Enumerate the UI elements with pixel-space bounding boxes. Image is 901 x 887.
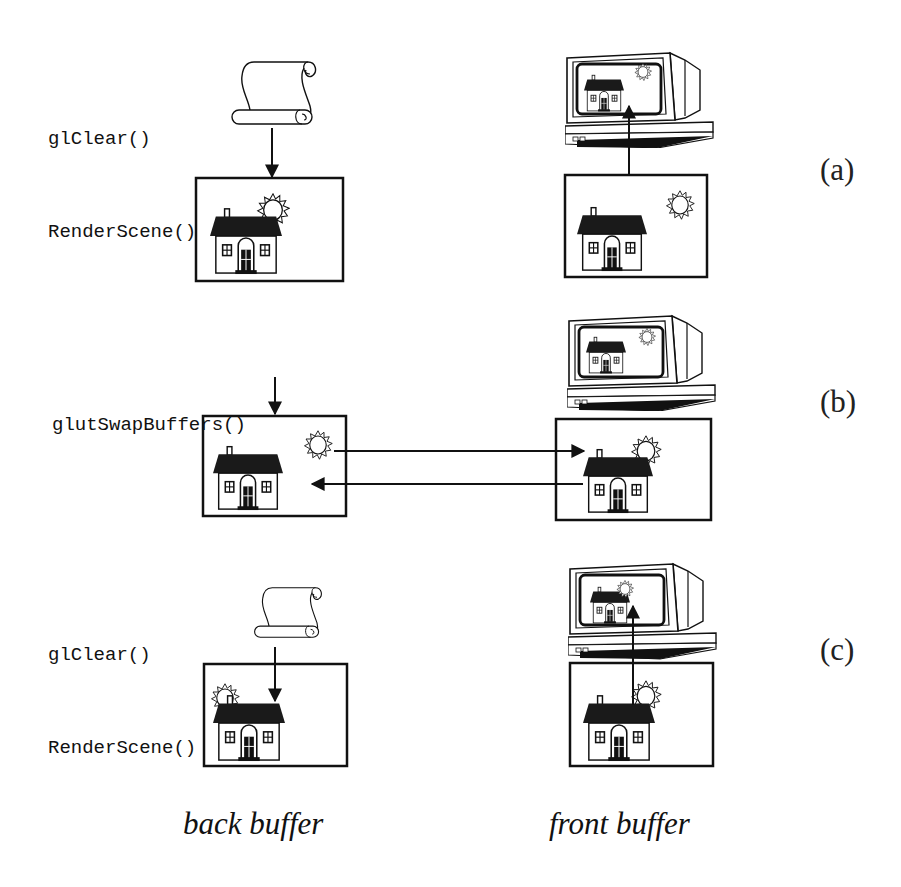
row-label-c: (c) [820, 632, 854, 668]
house-icon [577, 208, 647, 271]
house-icon [586, 337, 626, 373]
code-line: glutSwapBuffers() [52, 410, 246, 441]
row-b [203, 316, 715, 520]
house-icon [584, 75, 624, 111]
code-line: RenderScene() [48, 217, 196, 248]
house-icon [583, 450, 653, 513]
monitor-icon [568, 564, 716, 659]
code-block-c: glClear() RenderScene() [48, 578, 196, 826]
caption-front-buffer: front buffer [549, 806, 690, 842]
code-block-b: glutSwapBuffers() [52, 348, 246, 503]
row-label-b: (b) [820, 384, 856, 420]
scroll-icon [232, 62, 315, 124]
row-label-a: (a) [820, 152, 854, 188]
double-buffer-diagram: glClear() RenderScene() glutSwapBuffers(… [0, 0, 901, 887]
house-icon [213, 696, 285, 761]
scroll-icon [255, 588, 322, 638]
code-line: glClear() [48, 124, 196, 155]
house-icon [210, 209, 282, 274]
code-line: glClear() [48, 640, 196, 671]
row-a [196, 53, 713, 281]
code-line: RenderScene() [48, 733, 196, 764]
caption-back-buffer: back buffer [183, 806, 323, 842]
house-icon [583, 696, 655, 761]
code-block-a: glClear() RenderScene() [48, 62, 196, 310]
row-c [204, 564, 716, 766]
